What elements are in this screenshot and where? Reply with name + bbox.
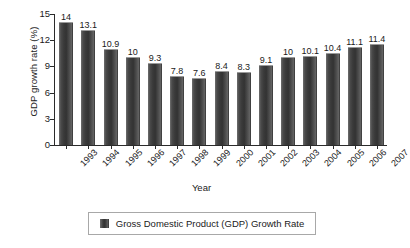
bar-rect	[237, 72, 251, 145]
bar-2005: 10.4	[326, 54, 340, 145]
bar-value-label: 7.6	[193, 69, 206, 78]
x-axis-tick-label-1997: 1997	[168, 148, 189, 169]
bar-rect	[303, 56, 317, 145]
bar-value-label: 10	[128, 48, 138, 57]
x-axis-tick-label-2005: 2005	[345, 148, 366, 169]
bar-value-label: 10.1	[302, 47, 320, 56]
x-axis-tick-label-1996: 1996	[146, 148, 167, 169]
plot-area: 03691215 1413.110.9109.37.87.68.48.39.11…	[54, 14, 387, 146]
bar-rect	[259, 65, 273, 145]
x-axis-tick-label-1993: 1993	[79, 148, 100, 169]
bar-value-label: 13.1	[80, 21, 98, 30]
bar-value-label: 10	[283, 48, 293, 57]
bar-value-label: 10.9	[102, 40, 120, 49]
bar-2002: 9.1	[259, 66, 273, 145]
y-axis-tick-label: 12	[39, 35, 50, 45]
bar-value-label: 8.4	[215, 62, 228, 71]
bar-1993: 14	[59, 23, 73, 145]
bar-rect	[215, 71, 229, 145]
bar-1996: 10	[126, 58, 140, 145]
bar-value-label: 9.3	[149, 54, 162, 63]
bar-rect	[326, 53, 340, 145]
x-axis-tick-label-1994: 1994	[101, 148, 122, 169]
bar-2001: 8.3	[237, 73, 251, 145]
bar-rect	[148, 63, 162, 145]
bar-rect	[370, 44, 384, 145]
x-axis-tick-label-2002: 2002	[279, 148, 300, 169]
bar-rect	[170, 76, 184, 145]
y-axis-tick-label: 6	[45, 88, 50, 98]
bar-1999: 7.6	[192, 79, 206, 145]
chart-legend: Gross Domestic Product (GDP) Growth Rate	[88, 212, 316, 235]
legend-swatch-gdp-growth-rate	[100, 219, 109, 228]
bar-rect	[59, 22, 73, 145]
x-axis-tick-label-1998: 1998	[190, 148, 211, 169]
bar-1998: 7.8	[170, 77, 184, 145]
bar-2007: 11.4	[370, 45, 384, 145]
x-axis-tick-label-2001: 2001	[257, 148, 278, 169]
y-axis-tick-label: 9	[45, 62, 50, 72]
bar-rect	[281, 57, 295, 145]
bar-rect	[126, 57, 140, 145]
x-axis-tick-label-2003: 2003	[301, 148, 322, 169]
bar-value-label: 14	[61, 13, 71, 22]
bar-value-label: 11.4	[368, 35, 385, 44]
bar-rect	[104, 49, 118, 145]
x-axis-tick-label-1999: 1999	[212, 148, 233, 169]
bar-1994: 13.1	[81, 31, 95, 145]
bar-1995: 10.9	[104, 50, 118, 145]
legend-label-gdp-growth-rate: Gross Domestic Product (GDP) Growth Rate	[116, 219, 304, 229]
bar-value-label: 7.8	[171, 67, 184, 76]
bar-value-label: 8.3	[237, 63, 250, 72]
x-axis-tick-labels: 1993199419951996199719981999200020012002…	[54, 148, 387, 178]
bar-rect	[192, 78, 206, 145]
x-axis-title: Year	[0, 182, 403, 193]
y-axis-tick-label: 0	[45, 140, 50, 150]
bar-rect	[348, 47, 362, 145]
bar-value-label: 9.1	[260, 56, 273, 65]
bar-2003: 10	[281, 58, 295, 145]
bar-2004: 10.1	[303, 57, 317, 145]
bar-2000: 8.4	[215, 72, 229, 145]
bar-value-label: 10.4	[324, 44, 342, 53]
bar-value-label: 11.1	[346, 38, 363, 47]
x-axis-tick-label-2004: 2004	[323, 148, 344, 169]
x-axis-tick-label-1995: 1995	[123, 148, 144, 169]
y-axis-title: GDP growth rate (%)	[28, 2, 39, 142]
x-axis-tick-label-2007: 2007	[390, 148, 410, 169]
bar-rect	[81, 30, 95, 145]
bars-layer: 1413.110.9109.37.87.68.48.39.11010.110.4…	[54, 14, 387, 146]
x-axis-tick-label-2006: 2006	[368, 148, 389, 169]
x-axis-tick-label-2000: 2000	[234, 148, 255, 169]
bar-1997: 9.3	[148, 64, 162, 145]
y-axis-tick-label: 15	[39, 9, 50, 19]
bar-2006: 11.1	[348, 48, 362, 145]
y-axis-tick-label: 3	[45, 114, 50, 124]
